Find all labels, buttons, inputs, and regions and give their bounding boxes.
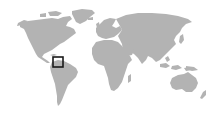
- locator-map: northern South America / Caribbean: [0, 0, 218, 116]
- japan: [179, 34, 184, 44]
- australia: [170, 72, 198, 92]
- greenland: [72, 9, 95, 24]
- madagascar: [128, 74, 131, 83]
- new-zealand: [200, 90, 206, 99]
- caribbean: [50, 54, 57, 56]
- world-map: [0, 0, 218, 116]
- british-isles: [96, 22, 100, 28]
- north-america: [20, 16, 76, 63]
- arctic-islands: [40, 11, 62, 17]
